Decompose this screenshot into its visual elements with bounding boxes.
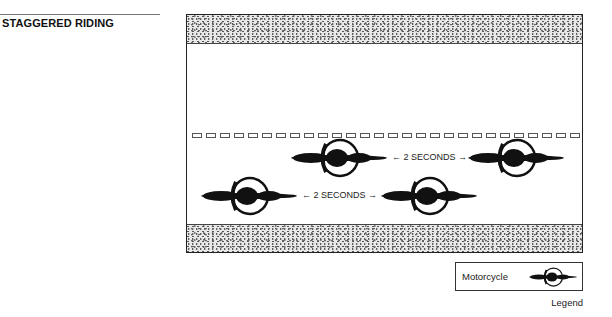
lane-dash — [430, 133, 440, 138]
lane-dash — [192, 133, 202, 138]
lane-dash — [234, 133, 244, 138]
following-distance-label: ← 2 SECONDS → — [392, 152, 467, 162]
lane-dash — [220, 133, 230, 138]
lane-dash — [402, 133, 412, 138]
motorcycle-icon — [466, 138, 566, 178]
legend-box: Motorcycle — [455, 262, 583, 291]
legend-caption: Legend — [551, 297, 583, 308]
lane-dash — [416, 133, 426, 138]
lane-dash — [388, 133, 398, 138]
road-diagram — [186, 14, 583, 253]
following-distance-label: ← 2 SECONDS → — [302, 190, 377, 200]
legend-item-label: Motorcycle — [462, 271, 508, 282]
motorcycle-icon — [289, 138, 389, 178]
motorcycle-icon — [199, 176, 299, 216]
page-title: STAGGERED RIDING — [2, 17, 114, 29]
road-shoulder-top — [187, 15, 582, 44]
lane-dash — [444, 133, 454, 138]
lane-dash — [570, 133, 580, 138]
road-shoulder-bottom — [187, 224, 582, 252]
header-rule — [0, 14, 160, 15]
lane-dash — [206, 133, 216, 138]
lane-dash — [262, 133, 272, 138]
lane-dash — [276, 133, 286, 138]
lane-dash — [248, 133, 258, 138]
motorcycle-icon — [379, 176, 479, 216]
motorcycle-icon — [528, 266, 578, 288]
